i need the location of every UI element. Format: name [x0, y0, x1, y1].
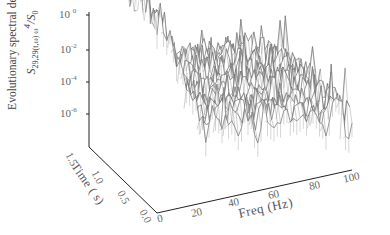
wireframe-surface	[89, 0, 352, 209]
freq-tick-80: 80	[308, 178, 321, 192]
z-axis-label: Evolutionary spectral density S29,29(t,ω…	[5, 0, 65, 160]
z-tick-1: 10-2	[60, 42, 77, 55]
freq-tick-20: 20	[190, 205, 203, 219]
z-axis-label-line2: S29,29(t,ω) ω4/S0	[19, 0, 44, 160]
z-tick-0: 10 0	[59, 7, 76, 20]
z-tick-2: 10-4	[60, 74, 77, 87]
z-axis-label-line1: Evolutionary spectral density	[5, 0, 19, 160]
z-tick-3: 10-6	[60, 106, 77, 119]
